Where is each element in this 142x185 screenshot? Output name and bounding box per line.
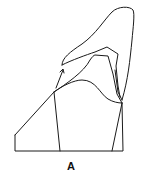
right-inner-line xyxy=(112,103,122,151)
inner-fold-curve xyxy=(54,55,122,103)
outer-tongue xyxy=(62,7,134,100)
left-inner-line xyxy=(54,92,60,151)
diagram-canvas xyxy=(0,0,142,185)
base-arch xyxy=(54,80,122,103)
figure-label: A xyxy=(0,160,142,172)
base-outline xyxy=(15,103,123,151)
upper-loop xyxy=(62,47,120,97)
left-slope xyxy=(15,92,54,135)
arrow-icon xyxy=(56,69,64,88)
right-fold-line xyxy=(115,70,122,100)
